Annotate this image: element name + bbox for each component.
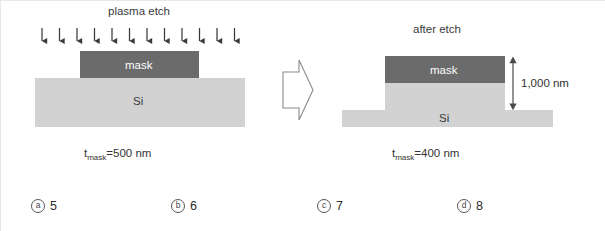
option-c-marker: c <box>317 199 331 213</box>
option-c-value: 7 <box>336 199 343 213</box>
option-b-value: 6 <box>190 199 197 213</box>
option-b-marker: b <box>171 199 185 213</box>
option-d-marker: d <box>457 199 471 213</box>
option-c[interactable]: c7 <box>317 199 343 213</box>
plasma-arrow-group <box>42 28 235 41</box>
double-headed-vertical-arrow-icon <box>509 57 516 111</box>
option-d-value: 8 <box>476 199 483 213</box>
option-d[interactable]: d8 <box>457 199 483 213</box>
option-a-value: 5 <box>50 199 57 213</box>
figure-vector-overlay <box>0 0 605 231</box>
option-a[interactable]: a5 <box>31 199 57 213</box>
right-block-arrow-icon <box>283 60 313 120</box>
option-a-marker: a <box>31 199 45 213</box>
etch-process-figure: plasma etch mask Si tmask=500 nm after e… <box>0 0 605 231</box>
option-b[interactable]: b6 <box>171 199 197 213</box>
